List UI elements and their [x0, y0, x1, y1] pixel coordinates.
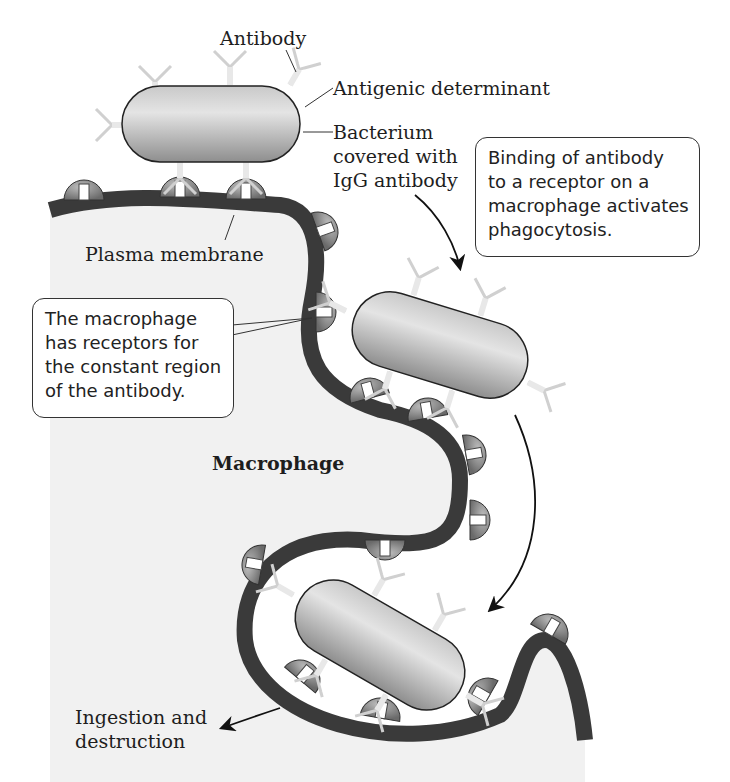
label-macrophage: Macrophage: [212, 451, 344, 475]
receptor-icon: [285, 652, 328, 693]
receptor-icon: [365, 540, 405, 560]
arrow-to-binding: [415, 195, 460, 268]
receptor-icon: [470, 500, 490, 540]
receptor-icon: [405, 395, 448, 422]
label-antigenic-determinant: Antigenic determinant: [333, 76, 550, 100]
phagocytosis-diagram: Antibody Antigenic determinant Bacterium…: [0, 0, 730, 782]
receptor-icon: [226, 179, 266, 199]
callout-binding: Binding of antibody to a receptor on a m…: [475, 137, 700, 257]
label-bacterium: Bacterium covered with IgG antibody: [333, 120, 458, 192]
arrow-to-engulf: [490, 415, 535, 610]
label-antibody: Antibody: [220, 26, 306, 50]
bacterium-1: [96, 48, 321, 194]
label-ingestion: Ingestion and destruction: [75, 705, 207, 753]
receptor-icon: [64, 180, 104, 200]
receptor-icon: [316, 292, 336, 332]
receptor-icon: [461, 671, 498, 716]
leader-antigenic: [305, 88, 333, 107]
callout-receptors: The macrophage has receptors for the con…: [32, 298, 234, 418]
label-plasma-membrane: Plasma membrane: [85, 242, 264, 266]
